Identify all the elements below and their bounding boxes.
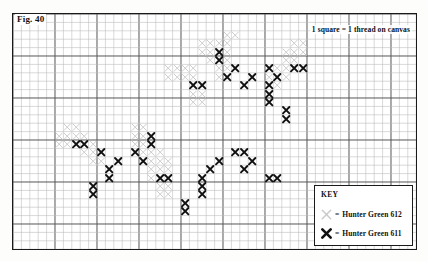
stitch-cell-light <box>131 132 139 140</box>
stitch-cell-light <box>282 48 290 56</box>
stitch-cell-dark <box>156 174 164 182</box>
stitch-cell-light <box>89 140 97 148</box>
stitch-cell-light <box>139 123 147 131</box>
stitch-cell-light <box>273 81 281 89</box>
key-entry-dark: = Hunter Green 611 <box>321 228 402 239</box>
stitch-cell-light <box>156 165 164 173</box>
stitch-cell-light <box>198 39 206 47</box>
stitch-cell-light <box>181 64 189 72</box>
key-label-dark: Hunter Green 611 <box>342 229 401 238</box>
stitch-cell-light <box>156 190 164 198</box>
stitch-cell-light <box>147 165 155 173</box>
stitch-cell-light <box>223 64 231 72</box>
stitch-cell-dark <box>72 140 80 148</box>
stitch-cell-dark <box>139 157 147 165</box>
stitch-cell-light <box>139 140 147 148</box>
stitch-cell-dark <box>189 81 197 89</box>
key-entry-light: = Hunter Green 612 <box>321 209 402 220</box>
stitch-cell-light <box>223 48 231 56</box>
stitch-cell-dark <box>206 165 214 173</box>
stitch-cell-dark <box>114 157 122 165</box>
stitch-cell-dark <box>198 174 206 182</box>
stitch-cell-dark <box>147 132 155 140</box>
stitch-cell-dark <box>273 174 281 182</box>
key-equals-light: = <box>335 210 339 219</box>
stitch-cell-dark <box>198 81 206 89</box>
stitch-cell-light <box>189 73 197 81</box>
stitch-cell-light <box>89 157 97 165</box>
stitch-cell-dark <box>198 182 206 190</box>
key-label-light: Hunter Green 612 <box>342 210 402 219</box>
stitch-cell-dark <box>273 73 281 81</box>
stitch-cell-light <box>63 140 71 148</box>
stitch-cell-light <box>72 123 80 131</box>
stitch-cell-light <box>206 39 214 47</box>
stitch-cell-light <box>206 48 214 56</box>
stitch-cell-light <box>55 132 63 140</box>
stitch-cell-light <box>265 73 273 81</box>
stitch-cell-light <box>147 148 155 156</box>
figure-container: Fig. 40 1 square = 1 thread on canvas KE… <box>0 0 428 262</box>
stitch-cell-light <box>164 190 172 198</box>
stitch-cell-light <box>164 157 172 165</box>
stitch-cell-dark <box>89 182 97 190</box>
stitch-cell-dark <box>265 81 273 89</box>
light-x-icon <box>321 209 332 220</box>
stitch-cell-light <box>139 132 147 140</box>
stitch-cell-light <box>189 90 197 98</box>
stitch-cell-light <box>181 73 189 81</box>
stitch-cell-light <box>131 123 139 131</box>
stitch-cell-dark <box>198 190 206 198</box>
stitch-cell-light <box>139 148 147 156</box>
stitch-cell-dark <box>265 174 273 182</box>
stitch-cell-dark <box>215 56 223 64</box>
stitch-cell-dark <box>290 64 298 72</box>
stitch-cell-light <box>55 140 63 148</box>
stitch-cell-dark <box>248 157 256 165</box>
stitch-cell-dark <box>89 190 97 198</box>
stitch-cell-light <box>80 132 88 140</box>
stitch-cell-light <box>164 64 172 72</box>
stitch-cell-light <box>282 56 290 64</box>
stitch-cell-light <box>223 56 231 64</box>
stitch-cell-light <box>63 132 71 140</box>
stitch-cell-light <box>231 31 239 39</box>
stitch-cell-dark <box>248 73 256 81</box>
stitch-cell-dark <box>282 106 290 114</box>
stitch-cell-dark <box>147 140 155 148</box>
stitch-cell-light <box>299 39 307 47</box>
stitch-cell-dark <box>265 98 273 106</box>
stitch-cell-light <box>156 157 164 165</box>
stitch-cell-light <box>282 73 290 81</box>
stitch-cell-light <box>273 64 281 72</box>
key-title: KEY <box>321 190 338 199</box>
stitch-cell-light <box>223 39 231 47</box>
figure-label: Fig. 40 <box>15 14 46 25</box>
stitch-cell-light <box>164 182 172 190</box>
stitch-cell-light <box>206 56 214 64</box>
stitch-cell-light <box>63 123 71 131</box>
dark-x-icon <box>321 228 332 239</box>
stitch-cell-dark <box>231 64 239 72</box>
stitch-cell-light <box>198 98 206 106</box>
stitch-cell-dark <box>105 174 113 182</box>
stitch-cell-light <box>72 132 80 140</box>
stitch-cell-light <box>89 148 97 156</box>
stitch-cell-light <box>215 64 223 72</box>
stitch-cell-dark <box>223 73 231 81</box>
stitch-cell-light <box>147 157 155 165</box>
stitch-cell-dark <box>215 157 223 165</box>
stitch-cell-dark <box>131 148 139 156</box>
stitch-cell-light <box>215 39 223 47</box>
stitch-cell-dark <box>240 81 248 89</box>
stitch-cell-light <box>156 182 164 190</box>
stitch-cell-dark <box>181 199 189 207</box>
stitch-cell-light <box>215 73 223 81</box>
stitch-cell-dark <box>181 207 189 215</box>
stitch-cell-dark <box>215 48 223 56</box>
stitch-cell-light <box>290 39 298 47</box>
stitch-cell-dark <box>265 64 273 72</box>
stitch-cell-dark <box>240 165 248 173</box>
stitch-cell-light <box>80 148 88 156</box>
stitch-cell-light <box>173 73 181 81</box>
